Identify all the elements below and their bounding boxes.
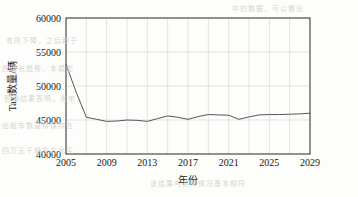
y-tick-label: 40000 (36, 149, 61, 160)
line-chart-svg: 2005200920132017202120252029 40000450005… (0, 0, 358, 197)
x-tick-label: 2013 (137, 157, 157, 168)
y-tick-label: 50000 (36, 81, 61, 92)
y-tick-label: 60000 (36, 13, 61, 24)
y-tick-labels: 4000045000500005500060000 (36, 13, 61, 160)
x-tick-label: 2009 (97, 157, 117, 168)
gridlines-group (66, 18, 310, 154)
x-tick-label: 2017 (178, 157, 198, 168)
x-tick-labels: 2005200920132017202120252029 (56, 157, 320, 168)
x-axis-title: 年份 (178, 174, 198, 186)
y-tick-label: 55000 (36, 47, 61, 58)
x-tick-label: 2029 (300, 157, 320, 168)
y-axis-title: Taxi数量/辆 (6, 61, 18, 111)
x-tick-label: 2025 (259, 157, 279, 168)
chart-figure: 中的数据，可以看出 有所下降，之后趋于 的增长趋势。本模型 预测结果表明，未来 … (0, 0, 358, 197)
y-tick-label: 45000 (36, 115, 61, 126)
x-tick-label: 2021 (219, 157, 239, 168)
